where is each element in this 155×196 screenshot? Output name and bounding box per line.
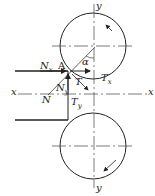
label-x-right: x [148,87,154,97]
label-n: N [42,95,51,105]
label-tx: Tx [101,73,112,86]
label-ty: Ty [71,97,82,110]
top-roll-rotation-icon [106,25,112,31]
label-x-left: x [11,87,17,97]
rolling-diagram: y y x x A α Nx Ny N T Tx Ty [0,0,155,196]
label-nx: Nx [40,61,53,74]
label-ny: Ny [56,83,69,96]
label-t: T [75,77,82,87]
label-point-a: A [58,61,65,71]
label-alpha: α [82,57,89,67]
label-y-top: y [96,1,102,11]
bottom-roll-rotation-icon [104,160,116,171]
label-y-bottom: y [96,183,102,193]
